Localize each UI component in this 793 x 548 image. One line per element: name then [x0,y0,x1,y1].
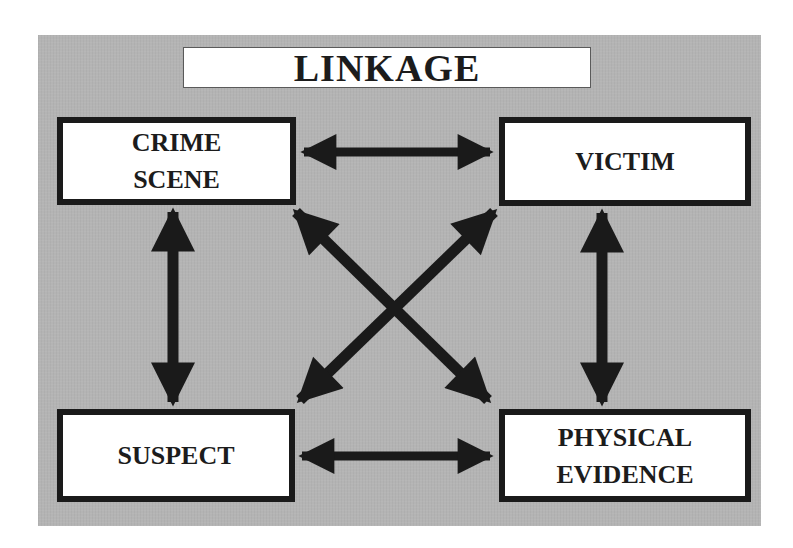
title-box: LINKAGE [183,47,591,88]
node-victim: VICTIM [499,117,751,206]
node-crime-scene-line2: SCENE [133,161,220,198]
node-crime-scene: CRIME SCENE [57,117,296,205]
node-suspect-label: SUSPECT [117,437,234,474]
node-suspect: SUSPECT [57,409,295,502]
diagram-title: LINKAGE [294,49,480,87]
node-physical-evidence-line2: EVIDENCE [556,456,693,493]
node-victim-label: VICTIM [575,143,675,180]
node-physical-evidence: PHYSICAL EVIDENCE [499,409,751,502]
node-physical-evidence-line1: PHYSICAL [558,419,692,456]
node-crime-scene-line1: CRIME [132,124,222,161]
